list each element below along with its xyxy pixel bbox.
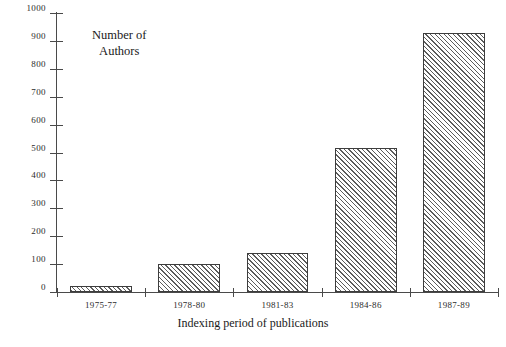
y-axis-tick-label-wrap: 500 [0,153,46,154]
y-axis-tick-label: 800 [2,64,46,65]
y-axis-tick-label: 500 [2,148,46,149]
y-axis-tick-label-wrap: 1000 [0,13,46,14]
x-axis-label: 1987-89 [410,300,498,310]
y-axis-tick-label-wrap: 100 [0,264,46,265]
bar-chart: Number of Authors 0100200300400500600700… [0,0,506,347]
y-axis-tick-label: 200 [2,231,46,232]
x-axis-line [56,292,498,293]
bar-1978-80 [158,264,220,292]
bar-1987-89 [423,33,485,292]
y-axis-tick-label: 900 [2,36,46,37]
bar-1975-77 [70,286,132,292]
y-axis-tick-label: 0 [2,287,46,288]
y-axis-tick-label: 300 [2,203,46,204]
y-axis-tick-label-wrap: 400 [0,180,46,181]
y-axis-tick-label: 100 [2,259,46,260]
x-axis-tick [498,288,499,297]
y-axis-tick-label-wrap: 0 [0,292,46,293]
bar-1981-83 [247,253,309,292]
x-axis-label: 1975-77 [57,300,145,310]
y-axis-tick-label-wrap: 900 [0,41,46,42]
y-axis-tick-label-wrap: 700 [0,97,46,98]
y-axis-tick-label-wrap: 600 [0,125,46,126]
bar-1984-86 [335,148,397,292]
y-axis-tick-label-wrap: 200 [0,236,46,237]
y-axis-tick-label-wrap: 300 [0,208,46,209]
y-axis-tick-label: 1000 [2,8,46,9]
y-axis-tick-label: 700 [2,92,46,93]
x-axis-label: 1984-86 [322,300,410,310]
x-axis-title: Indexing period of publications [0,316,506,331]
x-axis-label: 1981-83 [233,300,321,310]
x-axis-label: 1978-80 [145,300,233,310]
y-axis-tick-label: 600 [2,120,46,121]
y-axis-tick-label-wrap: 800 [0,69,46,70]
y-axis-tick-label: 400 [2,175,46,176]
plot-area [57,13,498,292]
